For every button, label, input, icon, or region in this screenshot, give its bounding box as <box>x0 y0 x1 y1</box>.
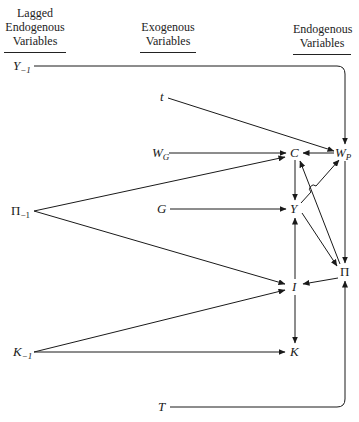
node-k-lag: K−1 <box>12 344 32 361</box>
node-t: t <box>160 89 164 104</box>
edge-y-pi <box>302 213 337 266</box>
edge-t-wp <box>168 98 334 151</box>
node-pi: Π <box>340 264 349 279</box>
node-g: G <box>157 201 167 216</box>
node-k: K <box>289 344 300 359</box>
node-y: Y <box>290 201 299 216</box>
edge-pi-c <box>300 161 340 264</box>
node-y-lag: Y−1 <box>13 58 31 75</box>
edge-pilag-i <box>34 211 285 284</box>
edge-klag-i <box>34 290 285 352</box>
node-c: C <box>290 145 299 160</box>
node-i: I <box>291 279 297 294</box>
causal-diagram: Y−1 Π−1 K−1 t WG G T C WP Y Π I K <box>0 0 359 422</box>
node-wg: WG <box>152 145 170 162</box>
edge-t-pi <box>170 281 345 407</box>
node-wp: WP <box>335 145 352 162</box>
edge-y-wp <box>301 160 339 203</box>
node-t-taxes: T <box>158 399 166 414</box>
edge-pi-i <box>303 278 338 284</box>
node-pi-lag: Π−1 <box>11 203 30 220</box>
